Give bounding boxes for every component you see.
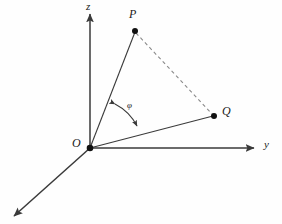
point-label-q: Q bbox=[222, 105, 231, 117]
segment-pq-dashed bbox=[136, 33, 213, 115]
angle-arc-phi bbox=[115, 104, 137, 126]
point-p-dot bbox=[132, 28, 138, 34]
point-group bbox=[87, 28, 217, 151]
axis-label-y: y bbox=[264, 139, 269, 150]
point-q-dot bbox=[211, 113, 217, 119]
point-label-o: O bbox=[72, 137, 81, 149]
segment-group bbox=[90, 32, 213, 148]
angle-arc-group bbox=[115, 104, 137, 126]
axis-label-z: z bbox=[86, 1, 90, 12]
diagram-canvas bbox=[0, 0, 282, 224]
axis-x-line bbox=[14, 148, 90, 216]
angle-label-phi: φ bbox=[127, 101, 132, 110]
vector-angle-diagram: z y O P Q φ bbox=[0, 0, 282, 224]
point-label-p: P bbox=[129, 8, 136, 20]
segment-op bbox=[90, 32, 135, 148]
point-o-dot bbox=[87, 145, 94, 152]
axis-group bbox=[14, 14, 254, 216]
segment-oq bbox=[90, 116, 213, 148]
